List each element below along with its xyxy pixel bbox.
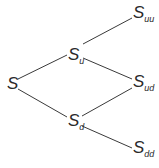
node-s-ud-main: S — [133, 72, 144, 91]
edge-su-suu — [83, 18, 132, 44]
node-s-u: Su — [68, 46, 84, 63]
node-s-ud-sub: ud — [144, 83, 154, 93]
edge-s-sd — [18, 89, 67, 117]
node-s-dd: Sdd — [133, 139, 154, 156]
node-s-uu: Suu — [133, 4, 154, 21]
edge-sd-sdd — [82, 126, 132, 148]
node-s-uu-sub: uu — [144, 14, 154, 24]
node-s-ud: Sud — [133, 73, 154, 90]
node-s: S — [7, 75, 18, 92]
node-s-d-sub: d — [79, 122, 84, 132]
edge-s-su — [18, 55, 67, 79]
edge-su-sud — [83, 58, 132, 79]
node-s-main: S — [7, 74, 18, 93]
edge-sd-sud — [82, 88, 132, 116]
node-s-uu-main: S — [133, 3, 144, 22]
node-s-d: Sd — [68, 112, 84, 129]
node-s-u-sub: u — [79, 56, 84, 66]
node-s-dd-main: S — [133, 138, 144, 157]
node-s-u-main: S — [68, 45, 79, 64]
node-s-d-main: S — [68, 111, 79, 130]
node-s-dd-sub: dd — [144, 149, 154, 159]
